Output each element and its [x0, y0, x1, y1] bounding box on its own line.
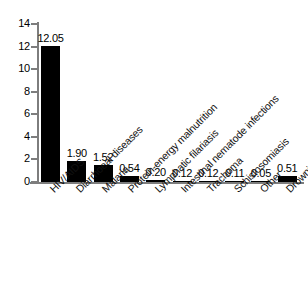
y-axis-tick-label: 6: [4, 108, 30, 119]
y-axis-tick: [31, 158, 38, 160]
y-axis-tick-label: 8: [4, 86, 30, 97]
y-axis-tick-label: 0: [4, 176, 30, 187]
y-axis-tick: [31, 23, 38, 25]
y-axis-tick-label-text: 12: [6, 41, 30, 52]
y-axis-tick-label: 10: [4, 63, 30, 74]
y-axis-tick-label: 2: [4, 153, 30, 164]
bar-chart: 02468101214 12.051.901.520.540.200.120.1…: [0, 0, 308, 304]
y-axis-tick-label-text: 8: [6, 86, 30, 97]
bar[interactable]: [41, 46, 60, 182]
y-axis-tick: [31, 91, 38, 93]
y-axis-tick-label-text: 2: [6, 153, 30, 164]
y-axis-tick: [31, 68, 38, 70]
y-axis-tick-label-text: 4: [6, 131, 30, 142]
y-axis-tick: [31, 181, 38, 183]
y-axis-tick: [31, 136, 38, 138]
y-axis-tick-label-text: 14: [6, 18, 30, 29]
y-axis-tick-label: 4: [4, 131, 30, 142]
bar-value-label: 12.05: [33, 33, 69, 44]
y-axis-tick-label-text: 0: [6, 176, 30, 187]
y-axis-tick-label-text: 6: [6, 108, 30, 119]
y-axis-tick-label-text: 10: [6, 63, 30, 74]
y-axis-tick: [31, 46, 38, 48]
y-axis-tick-label: 14: [4, 18, 30, 29]
y-axis-tick-label: 12: [4, 41, 30, 52]
y-axis-tick: [31, 113, 38, 115]
